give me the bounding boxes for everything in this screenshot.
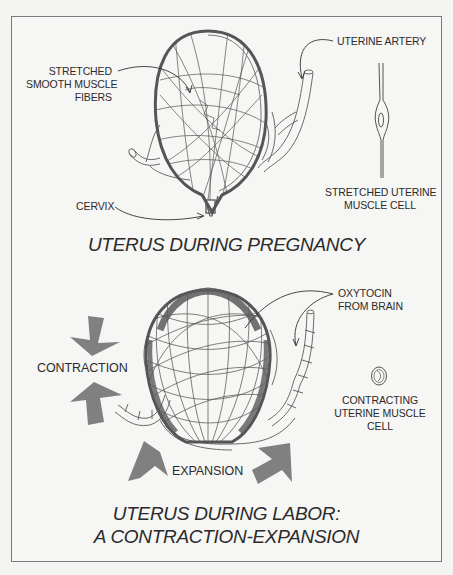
label-stretched-fibers: STRETCHED SMOOTH MUSCLE FIBERS xyxy=(26,65,112,104)
labor-uterus-illustration xyxy=(115,290,315,450)
label-expansion: EXPANSION xyxy=(172,465,243,478)
uterine-artery-labor-icon xyxy=(115,310,314,450)
label-contracting-muscle-cell: CONTRACTING UTERINE MUSCLE CELL xyxy=(328,394,432,433)
label-oxytocin: OXYTOCIN FROM BRAIN xyxy=(338,287,403,313)
contraction-arrow-down-icon xyxy=(70,316,120,356)
stretched-muscle-cell-icon xyxy=(375,63,389,178)
title-pregnancy: UTERUS DURING PREGNANCY xyxy=(0,233,453,256)
contraction-arrow-up-icon xyxy=(70,382,122,425)
contracting-muscle-cell-icon xyxy=(372,367,387,385)
stretched-fibers xyxy=(155,32,268,210)
title-labor: UTERUS DURING LABOR: A CONTRACTION-EXPAN… xyxy=(0,502,453,548)
label-stretched-muscle-cell: STRETCHED UTERINE MUSCLE CELL xyxy=(325,186,435,212)
expansion-arrow-left-icon xyxy=(128,441,168,481)
label-cervix: CERVIX xyxy=(76,200,114,213)
pregnant-uterus-illustration xyxy=(128,31,313,216)
label-contraction: CONTRACTION xyxy=(37,362,128,375)
uterine-wall xyxy=(155,31,266,212)
expansion-arrow-right-icon xyxy=(252,443,292,484)
label-uterine-artery: UTERINE ARTERY xyxy=(337,35,426,48)
